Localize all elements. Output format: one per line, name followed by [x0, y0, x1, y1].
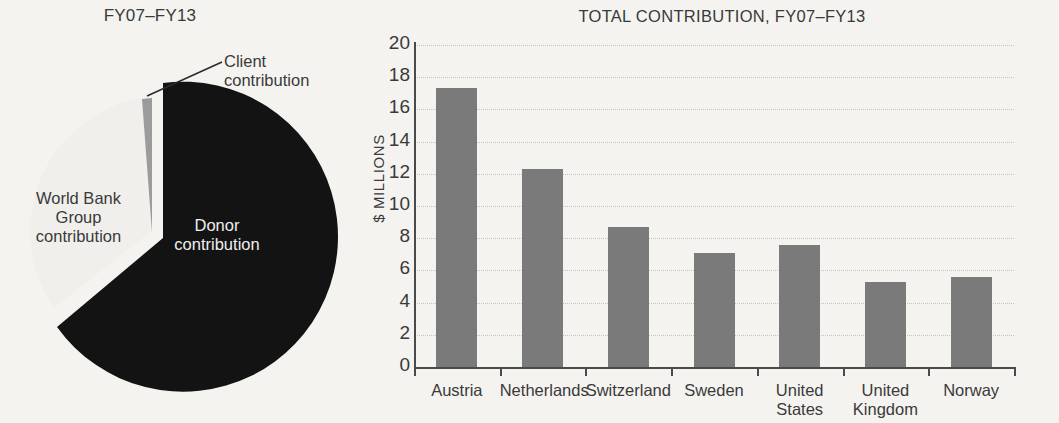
gridline [414, 174, 1014, 175]
y-axis-tick-label: 4 [370, 290, 410, 312]
y-axis-tick-label: 10 [370, 193, 410, 215]
pie-label-wbg-line1: World Bank [6, 189, 151, 208]
x-axis-line [414, 367, 1016, 369]
y-axis-tick-label: 0 [370, 354, 410, 376]
x-axis-tick [1014, 367, 1016, 376]
pie-chart-panel: FY07–FY13 Client contribution World Bank… [0, 0, 352, 423]
category-label-united-states: UnitedStates [757, 381, 843, 419]
category-label-norway: Norway [928, 381, 1014, 400]
figure-canvas: FY07–FY13 Client contribution World Bank… [0, 0, 1059, 423]
pie-label-client-line2: contribution [224, 71, 348, 90]
bar-chart-title: TOTAL CONTRIBUTION, FY07–FY13 [412, 7, 1032, 26]
y-axis-tick-label: 18 [370, 64, 410, 86]
x-axis-tick [928, 367, 930, 376]
category-label-line: Switzerland [585, 381, 671, 400]
gridline [414, 142, 1014, 143]
category-label-line: Austria [414, 381, 500, 400]
x-axis-tick [414, 367, 416, 376]
x-axis-tick [671, 367, 673, 376]
bar-united-states [779, 245, 820, 367]
gridline [414, 109, 1014, 110]
pie-label-client: Client contribution [224, 52, 348, 90]
pie-label-donor-line1: Donor [152, 216, 282, 235]
bar-switzerland [608, 227, 649, 367]
pie-label-world-bank-group: World Bank Group contribution [6, 189, 151, 246]
pie-label-client-line1: Client [224, 52, 348, 71]
pie-label-wbg-line2: Group [6, 208, 151, 227]
bar-austria [436, 88, 477, 367]
category-label-line: States [757, 400, 843, 419]
category-label-line: United [843, 381, 929, 400]
gridline [414, 206, 1014, 207]
x-axis-tick [585, 367, 587, 376]
category-label-switzerland: Switzerland [585, 381, 671, 400]
category-label-line: Sweden [671, 381, 757, 400]
bar-sweden [694, 253, 735, 367]
y-axis-tick-label: 14 [370, 129, 410, 151]
x-axis-tick [843, 367, 845, 376]
y-axis-tick-label: 16 [370, 96, 410, 118]
bar-chart-plot-area: 02468101214161820 AustriaNetherlandsSwit… [414, 45, 1014, 367]
category-label-line: Kingdom [843, 400, 929, 419]
bar-chart-panel: TOTAL CONTRIBUTION, FY07–FY13 $ MILLIONS… [352, 0, 1059, 423]
y-axis-line [414, 42, 416, 367]
bar-netherlands [522, 169, 563, 367]
y-axis-tick-label: 2 [370, 322, 410, 344]
bar-norway [951, 277, 992, 367]
y-axis-tick-label: 20 [370, 32, 410, 54]
x-axis-tick [500, 367, 502, 376]
y-axis-tick-label: 12 [370, 161, 410, 183]
pie-label-donor-line2: contribution [152, 235, 282, 254]
gridline [414, 45, 1014, 46]
bar-united-kingdom [865, 282, 906, 367]
category-label-netherlands: Netherlands [500, 381, 586, 400]
category-label-austria: Austria [414, 381, 500, 400]
category-label-line: United [757, 381, 843, 400]
category-label-sweden: Sweden [671, 381, 757, 400]
category-label-united-kingdom: UnitedKingdom [843, 381, 929, 419]
category-label-line: Netherlands [500, 381, 586, 400]
gridline [414, 238, 1014, 239]
pie-label-donor: Donor contribution [152, 216, 282, 254]
x-axis-tick [757, 367, 759, 376]
pie-label-wbg-line3: contribution [6, 227, 151, 246]
category-label-line: Norway [928, 381, 1014, 400]
y-axis-tick-label: 8 [370, 225, 410, 247]
y-axis-tick-label: 6 [370, 257, 410, 279]
gridline [414, 77, 1014, 78]
